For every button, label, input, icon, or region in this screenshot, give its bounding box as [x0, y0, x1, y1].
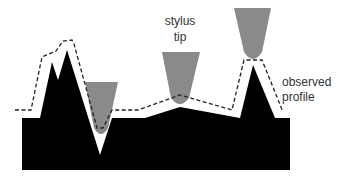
stylus-tip-hump: [162, 52, 200, 104]
sample-surface: [22, 50, 290, 170]
stylus-tip-peak: [234, 8, 271, 59]
observed-profile-label-line1: observed: [282, 75, 331, 89]
stylus-profile-diagram: stylus tip observed profile: [0, 0, 343, 177]
stylus-label-line1: stylus: [165, 14, 196, 28]
stylus-label-line2: tip: [174, 30, 187, 44]
observed-profile-label-line2: profile: [282, 90, 315, 104]
